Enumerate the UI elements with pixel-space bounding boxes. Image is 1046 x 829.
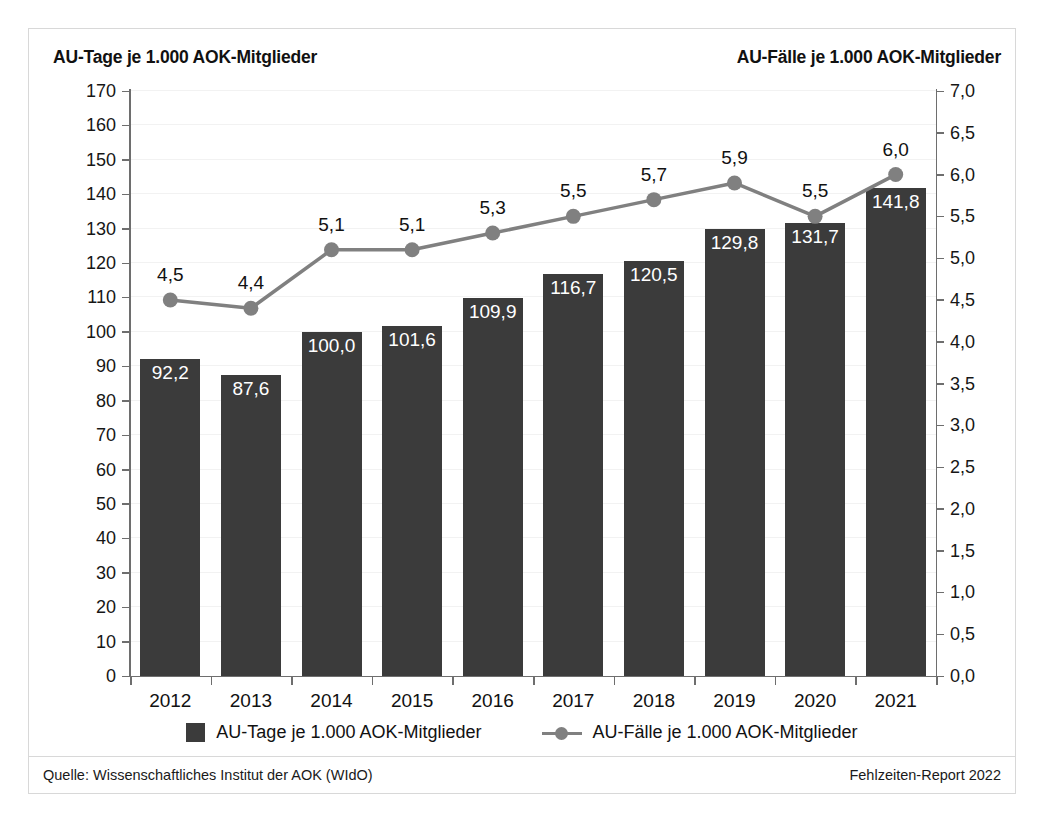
right-axis-tick-label: 0,5	[950, 625, 975, 643]
right-axis-tick	[937, 508, 944, 510]
x-axis-tick	[614, 676, 616, 685]
x-axis-label: 2015	[391, 690, 433, 712]
line-marker	[566, 209, 581, 224]
x-axis-label: 2016	[472, 690, 514, 712]
x-axis-tick	[533, 676, 535, 685]
chart-figure-frame: AU-Tage je 1.000 AOK-Mitglieder AU-Fälle…	[28, 28, 1016, 794]
line-value-label: 6,0	[882, 140, 908, 159]
gridline	[130, 90, 936, 91]
left-axis-title: AU-Tage je 1.000 AOK-Mitglieder	[53, 47, 317, 68]
x-axis-tick	[855, 676, 857, 685]
bar: 116,7	[543, 274, 603, 676]
x-axis-baseline	[125, 676, 941, 678]
right-axis-tick	[937, 299, 944, 301]
x-axis-label: 2018	[633, 690, 675, 712]
legend-item-au-tage: AU-Tage je 1.000 AOK-Mitglieder	[186, 722, 481, 743]
right-axis-spine	[936, 89, 938, 677]
legend-label-au-tage: AU-Tage je 1.000 AOK-Mitglieder	[216, 722, 481, 743]
source-note: Quelle: Wissenschaftliches Institut der …	[43, 767, 373, 783]
left-axis-tick-label: 120	[86, 254, 116, 272]
left-axis-tick	[122, 400, 129, 402]
bar: 109,9	[463, 298, 523, 676]
footer-divider	[29, 756, 1015, 757]
right-axis-tick	[937, 383, 944, 385]
line-marker	[646, 192, 661, 207]
left-axis-tick-label: 60	[96, 461, 116, 479]
left-axis-tick	[122, 538, 129, 540]
left-axis-tick-label: 80	[96, 392, 116, 410]
bar: 87,6	[221, 375, 281, 676]
x-axis-tick	[936, 676, 938, 685]
bar-value-label: 101,6	[388, 329, 436, 351]
right-axis-tick-label: 2,0	[950, 500, 975, 518]
left-axis-tick-label: 50	[96, 495, 116, 513]
right-axis-tick-label: 4,0	[950, 333, 975, 351]
x-axis-tick	[452, 676, 454, 685]
bar-value-label: 131,7	[791, 226, 839, 248]
bar: 129,8	[705, 229, 765, 676]
bar-value-label: 116,7	[550, 277, 596, 299]
bar-value-label: 129,8	[711, 232, 759, 254]
right-axis-title: AU-Fälle je 1.000 AOK-Mitglieder	[737, 47, 1001, 68]
x-axis-tick	[130, 676, 132, 685]
right-axis-tick-label: 3,5	[950, 375, 975, 393]
bar-value-label: 87,6	[232, 378, 269, 400]
x-axis-label: 2012	[149, 690, 191, 712]
right-axis-tick-label: 3,0	[950, 416, 975, 434]
bar: 92,2	[140, 359, 200, 676]
right-axis-tick-label: 6,0	[950, 166, 975, 184]
left-axis-tick	[122, 194, 129, 196]
x-axis-label: 2020	[794, 690, 836, 712]
right-axis-tick-label: 2,5	[950, 458, 975, 476]
left-axis-tick-label: 140	[86, 185, 116, 203]
right-axis-tick-label: 1,0	[950, 583, 975, 601]
left-axis-tick	[122, 435, 129, 437]
bar-swatch-icon	[186, 723, 205, 742]
line-marker	[808, 209, 823, 224]
line-marker	[727, 175, 742, 190]
bar: 141,8	[866, 188, 926, 676]
left-axis-tick-label: 130	[86, 220, 116, 238]
left-axis-tick-label: 20	[96, 598, 116, 616]
x-axis-label: 2019	[713, 690, 755, 712]
left-axis-tick	[122, 228, 129, 230]
x-axis-label: 2013	[230, 690, 272, 712]
left-axis-tick-label: 160	[86, 116, 116, 134]
x-axis-tick	[211, 676, 213, 685]
x-axis-tick	[694, 676, 696, 685]
right-axis-tick-label: 5,5	[950, 207, 975, 225]
line-value-label: 5,1	[318, 215, 344, 234]
legend-item-au-faelle: AU-Fälle je 1.000 AOK-Mitglieder	[542, 722, 858, 743]
left-axis-tick	[122, 572, 129, 574]
right-axis-tick-label: 4,5	[950, 291, 975, 309]
right-axis-tick	[937, 258, 944, 260]
line-marker	[324, 242, 339, 257]
left-axis-tick	[122, 91, 129, 93]
bar: 101,6	[382, 326, 442, 676]
left-axis-tick	[122, 125, 129, 127]
right-axis-tick	[937, 91, 944, 93]
left-axis-tick	[122, 263, 129, 265]
right-axis-tick	[937, 425, 944, 427]
right-axis-tick	[937, 634, 944, 636]
line-value-label: 4,5	[157, 265, 183, 284]
left-axis-tick-label: 110	[87, 288, 116, 306]
left-axis-tick-label: 40	[96, 529, 116, 547]
plot-area: 0102030405060708090100110120130140150160…	[130, 91, 936, 676]
x-axis-tick	[372, 676, 374, 685]
gridline	[130, 159, 936, 160]
right-axis-tick-label: 5,0	[950, 249, 975, 267]
x-axis-label: 2017	[552, 690, 594, 712]
line-marker	[163, 292, 178, 307]
x-axis-label: 2021	[875, 690, 917, 712]
bar: 131,7	[785, 223, 845, 676]
bar-value-label: 141,8	[872, 191, 920, 213]
left-axis-tick	[122, 366, 129, 368]
left-axis-tick-label: 30	[96, 564, 116, 582]
bar: 100,0	[302, 332, 362, 676]
line-value-label: 4,4	[238, 273, 264, 292]
line-value-label: 5,9	[721, 148, 747, 167]
right-axis-tick-label: 6,5	[950, 124, 975, 142]
report-note: Fehlzeiten-Report 2022	[849, 767, 1001, 783]
left-axis-tick	[122, 159, 129, 161]
